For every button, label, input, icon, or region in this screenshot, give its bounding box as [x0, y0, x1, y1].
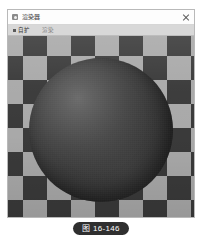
figure-container: 渲染器 自扩 渲染 图 16-146	[0, 0, 202, 243]
close-icon[interactable]	[180, 12, 191, 23]
rendered-sphere	[29, 58, 173, 202]
menu-item-render[interactable]: 渲染	[39, 27, 57, 34]
menu-bar: 自扩 渲染	[8, 25, 194, 36]
menu-bullet-icon	[13, 29, 16, 32]
figure-caption-label: 图 16-146	[73, 222, 129, 235]
menu-item-auto-label: 自扩	[18, 27, 30, 34]
menu-item-auto[interactable]: 自扩	[10, 27, 33, 34]
figure-caption: 图 16-146	[0, 222, 202, 235]
render-viewport[interactable]	[8, 36, 194, 217]
menu-item-render-label: 渲染	[42, 27, 54, 34]
sphere-grain-overlay	[29, 58, 173, 202]
app-window-icon	[11, 13, 19, 21]
render-preview-window: 渲染器 自扩 渲染	[7, 9, 195, 218]
sphere-bounce-light	[29, 58, 173, 202]
window-title-bar[interactable]: 渲染器	[8, 10, 194, 25]
window-title: 渲染器	[22, 13, 180, 21]
